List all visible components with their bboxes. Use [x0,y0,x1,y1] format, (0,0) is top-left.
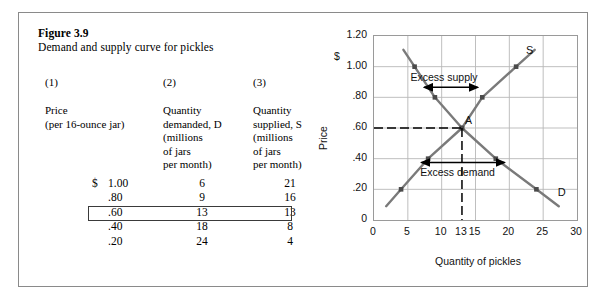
y-tick-label: 0 [333,212,367,224]
excess-supply-annotation: Excess supply [410,71,477,83]
supply-demand-chart: $ Price Quantity of pickles 1.201.00.80.… [300,22,590,282]
figure-title: Demand and supply curve for pickles [38,41,214,53]
y-tick-label: .20 [333,181,367,193]
plot-svg [374,36,577,220]
table-row: .601313 [30,206,330,220]
column-header-supplied: Quantity supplied, S (millions of jars p… [253,104,302,172]
y-tick-label: 1.00 [333,59,367,71]
y-tick-label: 1.20 [333,28,367,40]
column-header-price: Price (per 16-ounce jar) [45,104,124,131]
column-number-3: (3) [253,76,266,88]
x-tick-label: 25 [530,225,554,237]
x-tick-label: 20 [496,225,520,237]
x-tick-label: 0 [361,225,385,237]
cell-demanded: 6 [185,177,219,189]
y-tick-label: .60 [333,120,367,132]
cell-price: .80 [108,191,148,203]
table-row: .80916 [30,191,330,205]
cell-demanded: 13 [185,206,219,218]
table-row: .20244 [30,235,330,249]
supply-curve-label: S [526,44,533,56]
cell-price: .60 [108,206,148,218]
table-body: $1.00621.80916.601313.40188.20244 [30,177,330,249]
cell-price: .20 [108,235,148,247]
cell-price: .40 [108,220,148,232]
x-tick-label: 15 [463,225,487,237]
cell-demanded: 18 [185,220,219,232]
x-tick-label: 30 [564,225,588,237]
equilibrium-point-label: A [465,114,472,126]
cell-demanded: 24 [185,235,219,247]
demand-curve-label: D [558,186,566,198]
table-row: .40188 [30,220,330,234]
column-header-demanded: Quantity demanded, D (millions of jars p… [163,104,222,172]
x-tick-label: 5 [395,225,419,237]
y-axis-label: Price [317,108,329,168]
column-number-1: (1) [45,76,58,88]
figure-root: Figure 3.9 Demand and supply curve for p… [0,0,602,300]
excess-demand-annotation: Excess demand [420,166,495,178]
plot-area [373,35,578,221]
x-axis-label: Quantity of pickles [373,255,583,267]
currency-symbol-cell: $ [92,177,98,189]
cell-price: 1.00 [108,177,148,189]
figure-number: Figure 3.9 [38,27,89,39]
table-row: $1.00621 [30,177,330,191]
y-tick-label: .80 [333,89,367,101]
cell-demanded: 9 [185,191,219,203]
y-tick-label: .40 [333,151,367,163]
column-number-2: (2) [163,76,176,88]
